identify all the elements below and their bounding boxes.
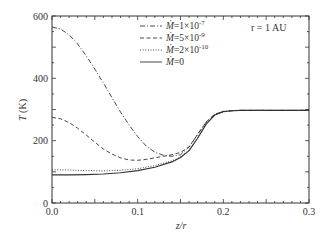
temperature-chart: 0.00.10.20.30200400600 T (K) z/r r = 1 A…: [0, 0, 330, 240]
legend-label: Ṁ=2×10-10: [165, 43, 209, 55]
series-line-solid: [52, 110, 309, 174]
series-line-dotted: [52, 110, 309, 170]
y-tick-label: 200: [33, 135, 48, 146]
y-tick-label: 0: [43, 198, 48, 209]
x-tick-label: 0.3: [303, 206, 316, 217]
legend-label: Ṁ=5×10-9: [165, 31, 205, 43]
legend-label: Ṁ=1×10-7: [165, 19, 205, 31]
x-axis-label: z/r: [175, 220, 187, 231]
y-tick-label: 600: [33, 11, 48, 22]
series-line-dashed: [52, 110, 309, 160]
x-tick-label: 0.2: [217, 206, 230, 217]
x-tick-label: 0.1: [131, 206, 144, 217]
y-axis-label: T (K): [17, 99, 29, 121]
legend: Ṁ=1×10-7Ṁ=5×10-9Ṁ=2×10-10Ṁ=0: [140, 19, 209, 67]
y-tick-label: 400: [33, 73, 48, 84]
annotation-radius: r = 1 AU: [251, 22, 287, 33]
legend-label: Ṁ=0: [165, 56, 184, 67]
